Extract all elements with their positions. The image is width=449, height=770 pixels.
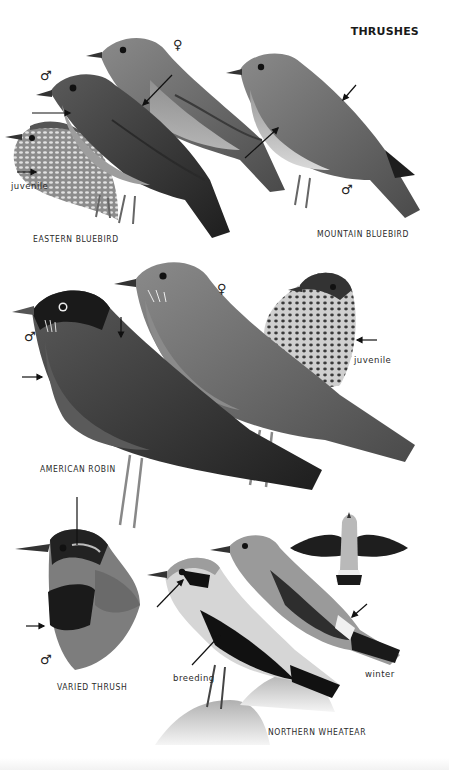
female-symbol-eastern-bluebird: ♀: [173, 38, 183, 51]
male-symbol-american-robin: ♂: [24, 330, 36, 343]
male-symbol-varied-thrush: ♂: [40, 653, 52, 666]
species-name-mountain-bluebird: MOUNTAIN BLUEBIRD: [317, 229, 409, 239]
female-symbol-american-robin: ♀: [217, 282, 227, 295]
species-name-american-robin: AMERICAN ROBIN: [40, 464, 116, 474]
note-winter-northern-wheatear: winter: [365, 669, 395, 679]
species-name-northern-wheatear: NORTHERN WHEATEAR: [268, 727, 366, 737]
species-name-varied-thrush: VARIED THRUSH: [57, 682, 127, 692]
male-symbol-mountain-bluebird: ♂: [341, 183, 353, 196]
male-symbol-eastern-bluebird: ♂: [40, 69, 52, 82]
species-name-eastern-bluebird: EASTERN BLUEBIRD: [33, 234, 119, 244]
field-guide-page: THRUSHES: [0, 0, 449, 770]
northern-wheatear-flight-figure: [290, 512, 408, 585]
illustration-plate: [0, 0, 449, 770]
varied-thrush-male-figure: [15, 529, 140, 670]
note-juvenile-eastern-bluebird: juvenile: [11, 181, 48, 191]
page-bottom-edge: [0, 758, 449, 770]
note-breeding-northern-wheatear: breeding: [173, 673, 215, 683]
note-juvenile-american-robin: juvenile: [354, 355, 391, 365]
